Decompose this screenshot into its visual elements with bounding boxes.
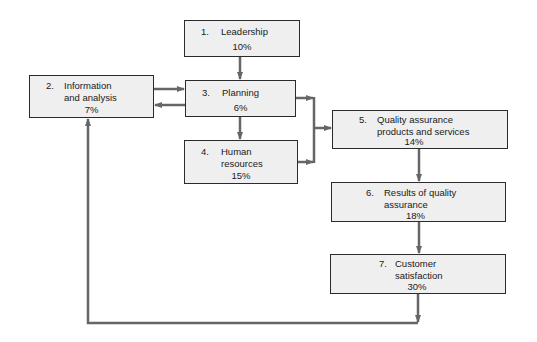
node-number: 5.: [359, 114, 367, 126]
node-weight: 14%: [321, 136, 507, 148]
node-weight: 7%: [30, 104, 153, 116]
node-leadership: 1. Leadership 10%: [184, 20, 300, 57]
node-weight: 18%: [326, 210, 505, 222]
node-weight: 15%: [185, 170, 297, 182]
node-weight: 30%: [329, 281, 505, 293]
node-number: 7.: [379, 258, 387, 270]
node-weight: 6%: [186, 102, 295, 114]
node-information-and-analysis: 2. Information and analysis 7%: [29, 75, 154, 118]
node-number: 4.: [201, 146, 209, 158]
node-label: Leadership: [221, 26, 268, 38]
node-number: 1.: [201, 26, 209, 38]
node-number: 3.: [202, 87, 210, 99]
node-planning: 3. Planning 6%: [185, 80, 296, 117]
node-quality-assurance-products: 5. Quality assurance products and servic…: [332, 110, 508, 149]
node-label: Quality assurance products and services: [377, 114, 469, 137]
node-label: Customer satisfaction: [395, 258, 443, 281]
node-label: Human resources: [221, 146, 263, 169]
node-label: Planning: [222, 87, 259, 99]
node-human-resources: 4. Human resources 15%: [184, 140, 298, 184]
node-number: 6.: [366, 187, 374, 199]
node-label: Results of quality assurance: [384, 187, 456, 210]
node-number: 2.: [46, 80, 54, 92]
node-customer-satisfaction: 7. Customer satisfaction 30%: [330, 254, 506, 294]
node-results-of-quality-assurance: 6. Results of quality assurance 18%: [331, 182, 506, 222]
node-weight: 10%: [185, 41, 299, 53]
node-label: Information and analysis: [64, 80, 117, 103]
